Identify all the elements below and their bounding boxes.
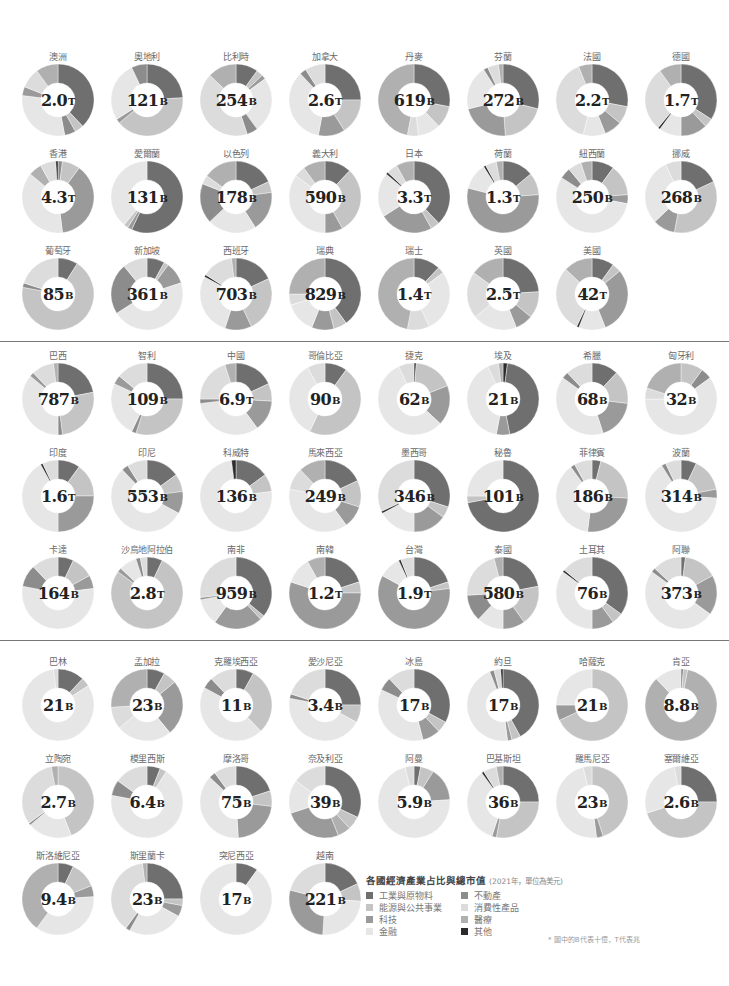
country-name: 南韓 <box>280 543 370 556</box>
market-cap-number: 580 <box>483 584 515 603</box>
market-cap-value: 373B <box>645 557 717 629</box>
legend-title-text: 各國經濟產業占比與總市值 <box>366 875 486 886</box>
country-name: 紐西蘭 <box>547 147 637 160</box>
country-name: 阿曼 <box>369 752 459 765</box>
market-cap-number: 75 <box>221 793 242 812</box>
market-cap-unit: B <box>248 589 256 600</box>
donut-chart-item: 日本3.3T <box>369 147 459 239</box>
country-name: 冰島 <box>369 655 459 668</box>
donut-chart-item: 荷蘭1.3T <box>458 147 548 239</box>
donut-chart-item: 摩洛哥75B <box>191 752 281 844</box>
donut-chart-item: 美國42T <box>547 244 637 336</box>
country-name: 約旦 <box>458 655 548 668</box>
donut-chart-item: 斯里蘭卡23B <box>102 849 192 941</box>
country-name: 比利時 <box>191 50 281 63</box>
donut-chart-item: 南非959B <box>191 543 281 635</box>
market-cap-value: 3.3T <box>378 161 450 233</box>
country-name: 塞爾維亞 <box>636 752 726 765</box>
market-cap-unit: B <box>243 895 251 906</box>
country-name: 突尼西亞 <box>191 849 281 862</box>
country-name: 斯里蘭卡 <box>102 849 192 862</box>
market-cap-value: 787B <box>22 363 94 435</box>
market-cap-number: 178 <box>216 188 248 207</box>
market-cap-number: 39 <box>310 793 331 812</box>
donut-chart-item: 埃及21B <box>458 349 548 441</box>
legend-swatch-icon <box>461 916 468 923</box>
market-cap-value: 619B <box>378 64 450 136</box>
market-cap-unit: B <box>515 96 523 107</box>
country-name: 印尼 <box>102 446 192 459</box>
country-name: 丹麥 <box>369 50 459 63</box>
market-cap-number: 23 <box>132 890 153 909</box>
market-cap-number: 17 <box>399 696 420 715</box>
market-cap-value: 221B <box>289 863 361 935</box>
market-cap-unit: B <box>424 798 432 809</box>
market-cap-unit: B <box>421 395 429 406</box>
market-cap-number: 17 <box>221 890 242 909</box>
market-cap-unit: B <box>337 895 345 906</box>
market-cap-value: 131B <box>111 161 183 233</box>
country-name: 瑞典 <box>280 244 370 257</box>
legend-title: 各國經濟產業占比與總市值(2021年，單位為美元) <box>366 873 716 887</box>
market-cap-value: 2.8T <box>111 557 183 629</box>
donut-chart-item: 台灣1.9T <box>369 543 459 635</box>
market-cap-value: 2.2T <box>556 64 628 136</box>
market-cap-number: 3.3 <box>397 188 423 207</box>
legend-label: 其他 <box>474 925 492 938</box>
market-cap-number: 346 <box>394 487 426 506</box>
market-cap-unit: T <box>68 193 75 204</box>
market-cap-number: 2.0 <box>41 91 67 110</box>
market-cap-number: 2.7 <box>41 793 67 812</box>
donut-chart-item: 沙烏地阿拉伯2.8T <box>102 543 192 635</box>
market-cap-value: 361B <box>111 258 183 330</box>
section-divider-1 <box>0 341 729 342</box>
market-cap-value: 249B <box>289 460 361 532</box>
market-cap-number: 21 <box>488 390 509 409</box>
legend-swatch-icon <box>461 928 468 935</box>
country-name: 哈薩克 <box>547 655 637 668</box>
market-cap-number: 1.3 <box>486 188 512 207</box>
market-cap-value: 9.4B <box>22 863 94 935</box>
market-cap-value: 703B <box>200 258 272 330</box>
market-cap-unit: T <box>246 395 253 406</box>
market-cap-unit: T <box>424 193 431 204</box>
donut-chart-item: 瑞士1.4T <box>369 244 459 336</box>
legend-items: 工業與原物料 不動產 能源與公共事業 消費性產品 科技 醫療 金融 其他 <box>366 890 716 937</box>
donut-chart-item: 哥倫比亞90B <box>280 349 370 441</box>
country-name: 印度 <box>13 446 103 459</box>
market-cap-value: 2.6B <box>645 766 717 838</box>
market-cap-unit: T <box>513 193 520 204</box>
donut-chart-item: 阿聯373B <box>636 543 726 635</box>
donut-chart-item: 奈及利亞39B <box>280 752 370 844</box>
country-name: 馬來西亞 <box>280 446 370 459</box>
market-cap-value: 21B <box>22 669 94 741</box>
donut-chart-item: 立陶宛2.7B <box>13 752 103 844</box>
country-name: 中國 <box>191 349 281 362</box>
country-name: 南非 <box>191 543 281 556</box>
donut-chart-item: 約旦17B <box>458 655 548 747</box>
market-cap-number: 4.3 <box>41 188 67 207</box>
legend-swatch-icon <box>366 892 373 899</box>
market-cap-number: 268 <box>661 188 693 207</box>
donut-chart-item: 模里西斯6.4B <box>102 752 192 844</box>
donut-chart-item: 塞爾維亞2.6B <box>636 752 726 844</box>
donut-chart-item: 菲律賓186B <box>547 446 637 538</box>
country-name: 摩洛哥 <box>191 752 281 765</box>
market-cap-unit: T <box>335 589 342 600</box>
market-cap-unit: B <box>691 798 699 809</box>
market-cap-number: 1.7 <box>664 91 690 110</box>
market-cap-number: 2.5 <box>486 285 512 304</box>
market-cap-unit: B <box>159 193 167 204</box>
donut-chart-item: 土耳其76B <box>547 543 637 635</box>
market-cap-value: 590B <box>289 161 361 233</box>
donut-chart-item: 波蘭314B <box>636 446 726 538</box>
country-name: 巴基斯坦 <box>458 752 548 765</box>
market-cap-unit: B <box>421 701 429 712</box>
market-cap-unit: B <box>510 798 518 809</box>
donut-chart-item: 克羅埃西亞11B <box>191 655 281 747</box>
market-cap-number: 2.6 <box>308 91 334 110</box>
country-name: 秘魯 <box>458 446 548 459</box>
market-cap-unit: B <box>70 395 78 406</box>
market-cap-value: 23B <box>111 863 183 935</box>
market-cap-number: 3.4 <box>308 696 334 715</box>
